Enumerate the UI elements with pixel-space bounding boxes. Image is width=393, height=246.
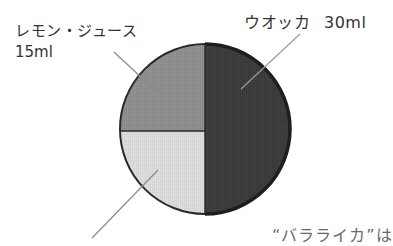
- leader-line-third: [92, 170, 158, 238]
- lemon-juice-amount: 15ml: [15, 43, 53, 61]
- vodka-label-group: ウオッカ30ml: [244, 9, 366, 33]
- vodka-amount: 30ml: [324, 13, 366, 32]
- caption-text: “バラライカ”は: [272, 222, 393, 246]
- lemon-juice-label: レモン・ジュース: [15, 19, 137, 40]
- vodka-label: ウオッカ: [244, 13, 310, 32]
